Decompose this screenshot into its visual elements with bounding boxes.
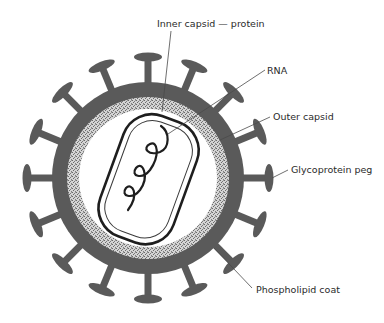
label-rna: RNA: [267, 65, 288, 76]
label-phospholipid-coat: Phospholipid coat: [256, 284, 340, 295]
capsid-interior: [79, 109, 217, 247]
label-inner-capsid: Inner capsid — protein: [157, 18, 265, 29]
leader-glycoprotein-peg: [272, 170, 288, 178]
label-glycoprotein-peg: Glycoprotein peg: [291, 164, 372, 175]
leader-phospholipid-coat: [214, 248, 252, 288]
virus-diagram: Inner capsid — protein RNA Outer capsid …: [0, 0, 384, 323]
label-outer-capsid: Outer capsid: [273, 111, 334, 122]
